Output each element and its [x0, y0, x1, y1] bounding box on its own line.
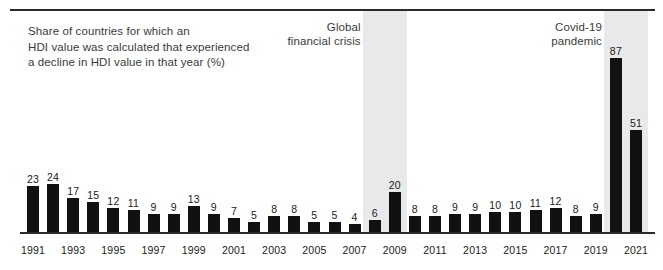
bar-value-label: 8 — [264, 203, 284, 215]
bar-group: 5 — [244, 0, 264, 270]
bar — [107, 208, 119, 232]
bar — [550, 208, 562, 232]
bar-group: 15 — [83, 0, 103, 270]
bar — [530, 210, 542, 232]
bar — [449, 214, 461, 232]
bar-value-label: 10 — [505, 199, 525, 211]
bar — [389, 192, 401, 232]
bar-group: 8 — [566, 0, 586, 270]
bar-group: 52005 — [304, 0, 324, 270]
bar-value-label: 9 — [586, 201, 606, 213]
bar — [27, 186, 39, 232]
bar-value-label: 8 — [425, 203, 445, 215]
bar-group: 82011 — [425, 0, 445, 270]
bar — [128, 210, 140, 232]
bar-value-label: 11 — [124, 197, 144, 209]
bar-group: 91997 — [144, 0, 164, 270]
bar — [47, 184, 59, 232]
bar-group: 82003 — [264, 0, 284, 270]
bar-group: 202009 — [385, 0, 405, 270]
bar — [188, 206, 200, 232]
bar-value-label: 51 — [626, 117, 646, 129]
bar-group: 121995 — [103, 0, 123, 270]
bar — [87, 202, 99, 232]
bar-group: 11 — [124, 0, 144, 270]
bar-group: 72001 — [224, 0, 244, 270]
bar — [268, 216, 280, 232]
bar-value-label: 4 — [345, 211, 365, 223]
bar-value-label: 8 — [284, 203, 304, 215]
bar-value-label: 11 — [526, 197, 546, 209]
bar — [248, 222, 260, 232]
bar-value-label: 9 — [204, 201, 224, 213]
bar-value-label: 7 — [224, 205, 244, 217]
bar-group: 10 — [485, 0, 505, 270]
bar-value-label: 12 — [103, 195, 123, 207]
bar — [369, 220, 381, 232]
bar — [509, 212, 521, 232]
bar — [67, 198, 79, 232]
bar-value-label: 23 — [23, 173, 43, 185]
plot-area: 2319912417199315121995119199791319999720… — [0, 0, 663, 270]
bar-group: 8 — [284, 0, 304, 270]
x-axis-tick-label: 2021 — [618, 244, 654, 256]
bar-value-label: 20 — [385, 179, 405, 191]
bar-group: 9 — [445, 0, 465, 270]
x-axis-baseline — [20, 232, 655, 234]
bar-group: 512021 — [626, 0, 646, 270]
bar — [630, 130, 642, 232]
bar-group: 42007 — [345, 0, 365, 270]
bar — [570, 216, 582, 232]
bar-value-label: 5 — [325, 209, 345, 221]
bar — [148, 214, 160, 232]
bar-group: 102015 — [505, 0, 525, 270]
bar — [228, 218, 240, 232]
bar-value-label: 15 — [83, 189, 103, 201]
bar-value-label: 87 — [606, 45, 626, 57]
bar-value-label: 9 — [164, 201, 184, 213]
bar-group: 171993 — [63, 0, 83, 270]
bar-group: 6 — [365, 0, 385, 270]
bar-group: 92013 — [465, 0, 485, 270]
bar-value-label: 6 — [365, 207, 385, 219]
bar-value-label: 8 — [405, 203, 425, 215]
bar-group: 9 — [164, 0, 184, 270]
bar — [469, 214, 481, 232]
bar — [610, 58, 622, 232]
bar-group: 24 — [43, 0, 63, 270]
bar-group: 122017 — [546, 0, 566, 270]
bar — [349, 224, 361, 232]
bar-value-label: 10 — [485, 199, 505, 211]
bar-value-label: 8 — [566, 203, 586, 215]
bar-group: 9 — [204, 0, 224, 270]
bar-group: 5 — [325, 0, 345, 270]
bar — [489, 212, 501, 232]
bar-value-label: 12 — [546, 195, 566, 207]
bar — [429, 216, 441, 232]
chart-figure: Global financial crisis Covid-19 pandemi… — [0, 0, 663, 270]
bar-value-label: 24 — [43, 171, 63, 183]
bar-value-label: 5 — [304, 209, 324, 221]
bar-value-label: 9 — [445, 201, 465, 213]
bar — [409, 216, 421, 232]
bar — [590, 214, 602, 232]
bar-group: 92019 — [586, 0, 606, 270]
bar-value-label: 17 — [63, 185, 83, 197]
bar-value-label: 9 — [144, 201, 164, 213]
bar-group: 8 — [405, 0, 425, 270]
bar-group: 131999 — [184, 0, 204, 270]
bar-value-label: 13 — [184, 193, 204, 205]
bar — [329, 222, 341, 232]
bar — [168, 214, 180, 232]
bar-group: 87 — [606, 0, 626, 270]
bar — [308, 222, 320, 232]
bar — [288, 216, 300, 232]
bar — [208, 214, 220, 232]
bar-value-label: 5 — [244, 209, 264, 221]
bar-group: 231991 — [23, 0, 43, 270]
bar-group: 11 — [526, 0, 546, 270]
bar-value-label: 9 — [465, 201, 485, 213]
